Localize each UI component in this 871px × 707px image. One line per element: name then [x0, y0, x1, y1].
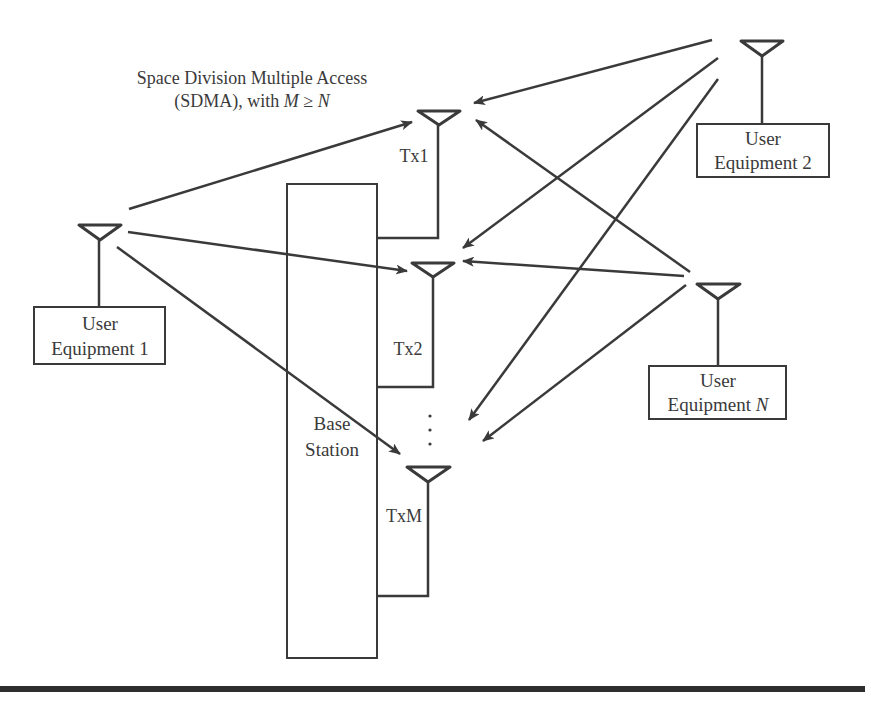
antenna-icon: [407, 467, 450, 482]
arrow-ue2-to-tx2: [463, 58, 718, 248]
uen-label-line-2: Equipment N: [668, 394, 770, 415]
arrow-ue2-to-txm: [469, 79, 718, 420]
txm-feed-line: [377, 482, 428, 596]
uen-label-line-1: User: [700, 370, 737, 391]
ue1-signal-arrows: [117, 122, 412, 454]
user-equipment-n: User Equipment N: [649, 284, 786, 419]
base-station-label-line-1: Base: [314, 413, 351, 434]
ue2-label-line-2: Equipment 2: [714, 152, 812, 173]
ue1-label-line-2: Equipment 1: [51, 338, 149, 359]
bottom-rule: [0, 686, 865, 692]
txm-antenna: TxM: [377, 467, 450, 596]
sdma-diagram: Space Division Multiple Access (SDMA), w…: [0, 0, 871, 707]
arrow-ue1-to-tx1: [129, 122, 412, 209]
tx2-antenna: Tx2: [377, 263, 454, 387]
arrow-uen-to-tx1: [476, 120, 690, 272]
base-station-label-line-2: Station: [305, 439, 359, 460]
arrow-ue1-to-tx2: [128, 232, 407, 271]
ue2-signal-arrows: [463, 40, 718, 420]
arrow-uen-to-tx2: [463, 261, 684, 276]
arrow-ue1-to-txm: [117, 247, 400, 454]
antenna-icon: [79, 225, 121, 240]
antenna-icon: [418, 111, 460, 125]
uen-signal-arrows: [463, 120, 690, 441]
diagram-title: Space Division Multiple Access (SDMA), w…: [137, 68, 367, 112]
arrow-ue2-to-tx1: [474, 40, 712, 103]
ellipsis-dots: [428, 414, 431, 445]
antenna-icon: [412, 263, 454, 277]
antenna-icon: [741, 41, 783, 56]
tx2-feed-line: [377, 277, 433, 387]
title-line-2: (SDMA), with M ≥ N: [174, 91, 330, 112]
user-equipment-2: User Equipment 2: [697, 41, 829, 177]
tx1-feed-line: [377, 125, 438, 238]
antenna-icon: [697, 284, 740, 299]
txm-label: TxM: [386, 506, 422, 526]
tx1-label: Tx1: [400, 146, 429, 166]
ue1-label-line-1: User: [82, 313, 119, 334]
title-line-1: Space Division Multiple Access: [137, 68, 367, 88]
arrow-uen-to-txm: [483, 285, 686, 441]
ue2-label-line-1: User: [745, 128, 782, 149]
user-equipment-1: User Equipment 1: [34, 225, 165, 364]
tx2-label: Tx2: [394, 339, 423, 359]
